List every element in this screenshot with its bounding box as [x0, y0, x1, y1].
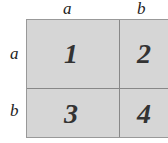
cell-ba: 3 — [64, 100, 78, 128]
row-label-b: b — [10, 102, 19, 119]
column-label-a: a — [63, 0, 72, 17]
column-label-b: b — [137, 0, 146, 17]
grid: 1 2 3 4 — [26, 19, 168, 138]
cell-aa: 1 — [64, 40, 78, 68]
vertical-divider — [119, 20, 120, 137]
cell-bb: 4 — [137, 100, 151, 128]
horizontal-divider — [27, 88, 168, 89]
cell-ab: 2 — [137, 40, 151, 68]
row-label-a: a — [10, 45, 19, 62]
